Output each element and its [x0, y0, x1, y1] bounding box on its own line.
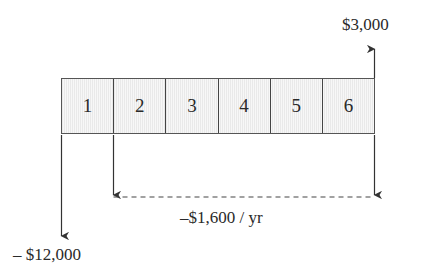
annual-outflow-label: –$1,600 / yr [180, 208, 263, 228]
final-inflow-label: $3,000 [342, 15, 389, 35]
cash-flow-arrows [0, 0, 432, 279]
initial-outflow-label: – $12,000 [13, 245, 81, 265]
